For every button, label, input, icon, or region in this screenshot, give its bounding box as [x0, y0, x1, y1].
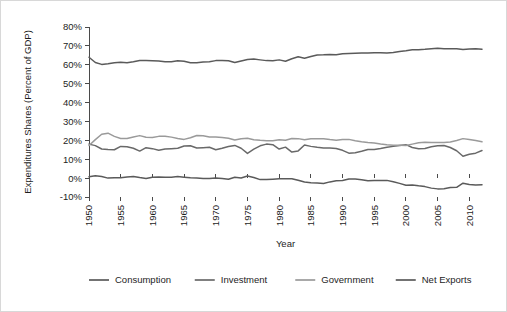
x-tick-label: 1985	[305, 205, 316, 226]
x-tick-label: 1975	[242, 205, 253, 226]
y-tick-label: 40%	[63, 97, 83, 108]
x-tick-label: 2000	[400, 205, 411, 226]
x-tick-label: 1980	[274, 205, 285, 226]
series-line-net-exports	[89, 176, 482, 189]
x-axis-title: Year	[276, 238, 295, 249]
y-tick-label: 80%	[63, 21, 83, 32]
y-tick-label: 70%	[63, 40, 83, 51]
y-tick-label: 60%	[63, 59, 83, 70]
legend-label-consumption[interactable]: Consumption	[115, 274, 171, 285]
x-tick-label: 2010	[464, 205, 475, 226]
series-line-government	[89, 133, 482, 145]
y-tick-label: 0%	[68, 173, 82, 184]
legend-label-net-exports[interactable]: Net Exports	[422, 274, 472, 285]
x-tick-label: 1960	[147, 205, 158, 226]
x-tick-label: 1955	[115, 205, 126, 226]
x-tick-label: 1970	[210, 205, 221, 226]
y-axis-title: Expenditures Shares (Percent of GDP)	[22, 30, 33, 194]
y-tick-label: -10%	[60, 191, 83, 202]
series-line-consumption	[89, 48, 482, 64]
legend-label-investment[interactable]: Investment	[221, 274, 268, 285]
y-tick-label: 30%	[63, 116, 83, 127]
x-tick-label: 1950	[83, 205, 94, 226]
x-tick-label: 2005	[432, 205, 443, 226]
line-chart: 80%70%60%50%40%30%20%10%0%-10%1950195519…	[1, 1, 507, 312]
legend-label-government[interactable]: Government	[321, 274, 374, 285]
x-tick-label: 1990	[337, 205, 348, 226]
y-tick-label: 50%	[63, 78, 83, 89]
series-line-investment	[89, 144, 482, 156]
chart-figure: 80%70%60%50%40%30%20%10%0%-10%1950195519…	[0, 0, 507, 312]
x-tick-label: 1995	[369, 205, 380, 226]
x-tick-label: 1965	[178, 205, 189, 226]
y-tick-label: 20%	[63, 135, 83, 146]
y-tick-label: 10%	[63, 154, 83, 165]
